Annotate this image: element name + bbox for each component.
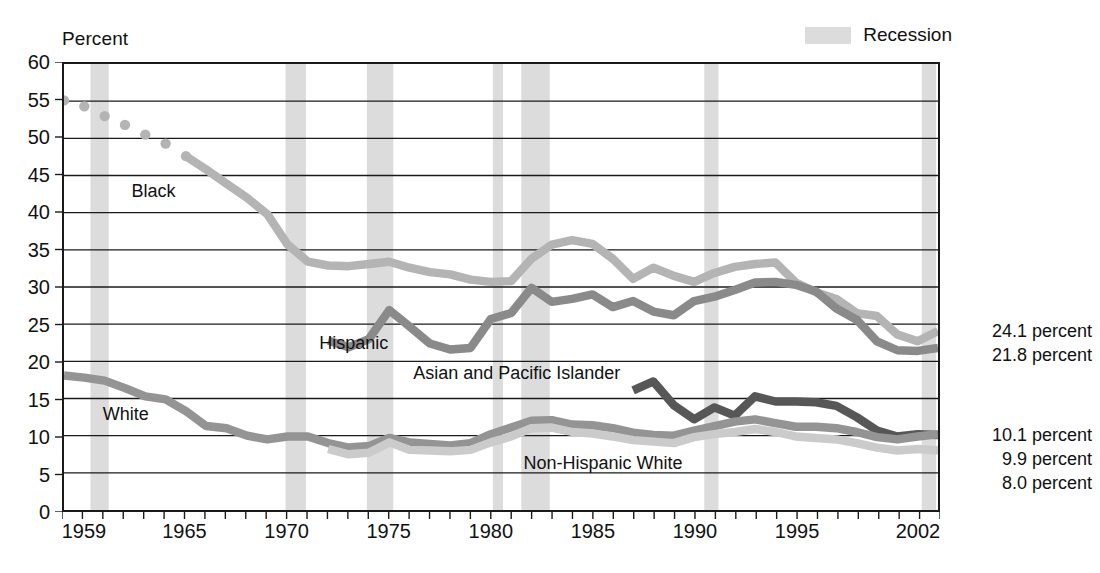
data-point-marker [99, 111, 109, 121]
y-tick-label: 50 [28, 126, 50, 149]
y-tick-label: 35 [28, 238, 50, 261]
x-tick-label: 1980 [469, 520, 514, 543]
x-tick-label: 1970 [264, 520, 309, 543]
x-tick-label: 1965 [162, 520, 207, 543]
end-value-label: 24.1 percent [932, 320, 1092, 344]
y-tick-label: 30 [28, 276, 50, 299]
x-tick-label: 1975 [366, 520, 411, 543]
x-tick-label: 2002 [896, 520, 941, 543]
end-value-label: 10.1 percent [932, 424, 1092, 448]
y-axis-title: Percent [62, 28, 128, 50]
x-axis-ticks [62, 512, 940, 522]
series-label-asian: Asian and Pacific Islander [413, 363, 620, 384]
x-tick-label: 1990 [673, 520, 718, 543]
series-label-white: White [103, 404, 149, 425]
y-axis-ticks [55, 62, 63, 512]
end-value-label: 21.8 percent [932, 344, 1092, 368]
data-point-marker [120, 120, 130, 130]
x-tick-label: 1959 [62, 520, 107, 543]
series-line-hispanic [328, 282, 938, 351]
data-point-marker [140, 129, 150, 139]
x-axis-tick-labels: 195919651970197519801985199019952002 [62, 520, 940, 554]
data-point-marker [160, 138, 170, 148]
y-tick-label: 60 [28, 51, 50, 74]
series-label-hispanic: Hispanic [319, 333, 388, 354]
y-tick-label: 40 [28, 201, 50, 224]
data-point-marker [79, 101, 89, 111]
series-label-non-hispanic-white: Non-Hispanic White [523, 453, 682, 474]
plot-area [62, 62, 940, 512]
legend: Recession [805, 24, 952, 46]
y-tick-label: 25 [28, 313, 50, 336]
end-value-label: 8.0 percent [932, 472, 1092, 496]
plot-svg [64, 64, 938, 510]
y-axis-tick-labels: 051015202530354045505560 [0, 62, 56, 512]
recession-legend-label: Recession [863, 24, 952, 46]
poverty-rate-chart: Percent Recession 0510152025303540455055… [0, 0, 1100, 573]
data-point-marker [64, 95, 69, 105]
x-tick-label: 1995 [775, 520, 820, 543]
series-label-black: Black [131, 181, 175, 202]
y-tick-label: 0 [39, 501, 50, 524]
x-tick-label: 1985 [571, 520, 616, 543]
y-tick-label: 10 [28, 426, 50, 449]
end-value-label: 9.9 percent [932, 448, 1092, 472]
y-tick-label: 55 [28, 88, 50, 111]
recession-legend-swatch [805, 27, 851, 44]
end-value-labels-upper: 24.1 percent21.8 percent [932, 320, 1092, 368]
y-tick-label: 5 [39, 463, 50, 486]
end-value-labels-lower: 10.1 percent9.9 percent8.0 percent [932, 424, 1092, 495]
y-tick-label: 15 [28, 388, 50, 411]
y-tick-label: 20 [28, 351, 50, 374]
y-tick-label: 45 [28, 163, 50, 186]
